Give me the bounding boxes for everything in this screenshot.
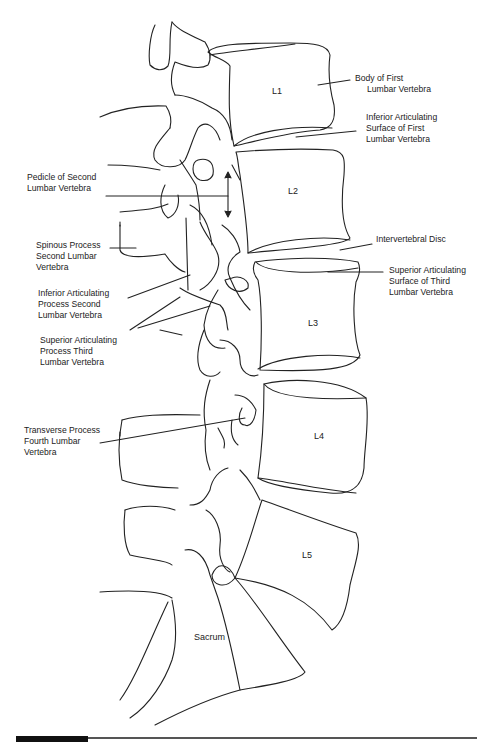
label-l2: L2 bbox=[288, 186, 298, 196]
label-l5: L5 bbox=[302, 550, 312, 560]
callout-transverse-process-fourth: Transverse Process Fourth Lumbar Vertebr… bbox=[24, 425, 100, 458]
callout-inferior-articulating-surface-first: Inferior Articulating Surface of First L… bbox=[366, 112, 437, 145]
leader-body-first bbox=[318, 80, 350, 85]
callout-superior-articulating-process-third: Superior Articulating Process Third Lumb… bbox=[40, 335, 117, 368]
sacrum-outline bbox=[155, 578, 305, 725]
callout-superior-articulating-surface-third: Superior Articulating Surface of Third L… bbox=[389, 265, 466, 298]
callout-body-first-lumbar: Body of First Lumbar Vertebra bbox=[355, 73, 431, 95]
callout-pedicle-second: Pedicle of Second Lumbar Vertebra bbox=[27, 172, 96, 194]
callout-inferior-articulating-process-second: Inferior Articulating Process Second Lum… bbox=[38, 288, 109, 321]
label-l3: L3 bbox=[308, 318, 318, 328]
label-l4: L4 bbox=[314, 431, 324, 441]
leader-inferior-process-second bbox=[128, 275, 190, 298]
l4-body-outline bbox=[258, 381, 367, 494]
facet-oval bbox=[225, 277, 248, 291]
leader-superior-process-third bbox=[130, 297, 180, 330]
label-l1: L1 bbox=[272, 86, 282, 96]
callout-spinous-process-second: Spinous Process Second Lumbar Vertebra bbox=[36, 240, 101, 273]
leader-intervertebral-disc bbox=[340, 244, 372, 250]
callout-intervertebral-disc: Intervertebral Disc bbox=[376, 234, 446, 245]
label-sacrum: Sacrum bbox=[194, 632, 225, 642]
l2-body-outline bbox=[236, 149, 350, 253]
footer-bar-accent bbox=[16, 736, 88, 742]
l3-body-outline bbox=[254, 258, 360, 370]
l5-body-outline bbox=[235, 500, 358, 630]
